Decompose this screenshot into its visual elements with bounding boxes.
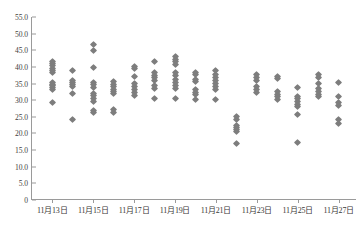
y-tick-label: 35.0 bbox=[15, 79, 32, 88]
data-point bbox=[69, 116, 76, 123]
x-tick-label: 11月27日 bbox=[324, 204, 355, 215]
y-tick-mark bbox=[32, 66, 36, 67]
x-tick-label: 11月19日 bbox=[160, 204, 191, 215]
data-point bbox=[212, 96, 219, 103]
y-tick-mark bbox=[32, 33, 36, 34]
y-tick-mark bbox=[32, 183, 36, 184]
x-tick-label: 11月25日 bbox=[283, 204, 314, 215]
x-tick-mark bbox=[134, 199, 135, 203]
data-point bbox=[90, 47, 97, 54]
x-tick-mark bbox=[298, 199, 299, 203]
y-tick-mark bbox=[32, 133, 36, 134]
y-tick-mark bbox=[32, 50, 36, 51]
y-tick-label: 40.0 bbox=[15, 62, 32, 71]
scatter-chart: 05.010.015.020.025.030.035.040.045.050.0… bbox=[0, 0, 359, 234]
plot-area: 05.010.015.020.025.030.035.040.045.050.0… bbox=[31, 17, 356, 200]
y-tick-mark bbox=[32, 150, 36, 151]
data-point bbox=[171, 95, 178, 102]
data-point bbox=[335, 120, 342, 127]
x-tick-label: 11月15日 bbox=[78, 204, 109, 215]
x-tick-label: 11月17日 bbox=[119, 204, 150, 215]
y-tick-mark bbox=[32, 100, 36, 101]
data-point bbox=[233, 140, 240, 147]
y-tick-label: 45.0 bbox=[15, 46, 32, 55]
x-tick-label: 11月21日 bbox=[201, 204, 232, 215]
x-tick-label: 11月13日 bbox=[37, 204, 68, 215]
data-point bbox=[131, 65, 138, 72]
y-tick-label: 10.0 bbox=[15, 162, 32, 171]
data-point bbox=[335, 79, 342, 86]
y-tick-label: 15.0 bbox=[15, 146, 32, 155]
data-point bbox=[49, 99, 56, 106]
y-tick-mark bbox=[32, 200, 36, 201]
x-tick-mark bbox=[52, 199, 53, 203]
y-tick-label: 50.0 bbox=[15, 29, 32, 38]
data-point bbox=[274, 75, 281, 82]
y-tick-mark bbox=[32, 83, 36, 84]
data-point bbox=[151, 58, 158, 65]
y-tick-label: 25.0 bbox=[15, 112, 32, 121]
y-tick-label: 20.0 bbox=[15, 129, 32, 138]
data-point bbox=[90, 64, 97, 71]
y-tick-mark bbox=[32, 166, 36, 167]
data-point bbox=[294, 84, 301, 91]
x-tick-label: 11月23日 bbox=[242, 204, 273, 215]
x-tick-mark bbox=[339, 199, 340, 203]
x-tick-mark bbox=[257, 199, 258, 203]
data-point bbox=[294, 139, 301, 146]
data-point bbox=[69, 90, 76, 97]
y-tick-label: 30.0 bbox=[15, 96, 32, 105]
y-tick-label: 55.0 bbox=[15, 13, 32, 22]
data-point bbox=[253, 89, 260, 96]
y-tick-label: 5.0 bbox=[19, 179, 32, 188]
data-point bbox=[294, 111, 301, 118]
y-tick-mark bbox=[32, 17, 36, 18]
data-point bbox=[192, 96, 199, 103]
x-tick-mark bbox=[175, 199, 176, 203]
x-tick-mark bbox=[93, 199, 94, 203]
y-tick-label: 0 bbox=[24, 196, 32, 205]
data-point bbox=[131, 92, 138, 99]
data-point bbox=[69, 67, 76, 74]
y-tick-mark bbox=[32, 116, 36, 117]
data-point bbox=[315, 93, 322, 100]
x-tick-mark bbox=[216, 199, 217, 203]
data-point bbox=[151, 95, 158, 102]
